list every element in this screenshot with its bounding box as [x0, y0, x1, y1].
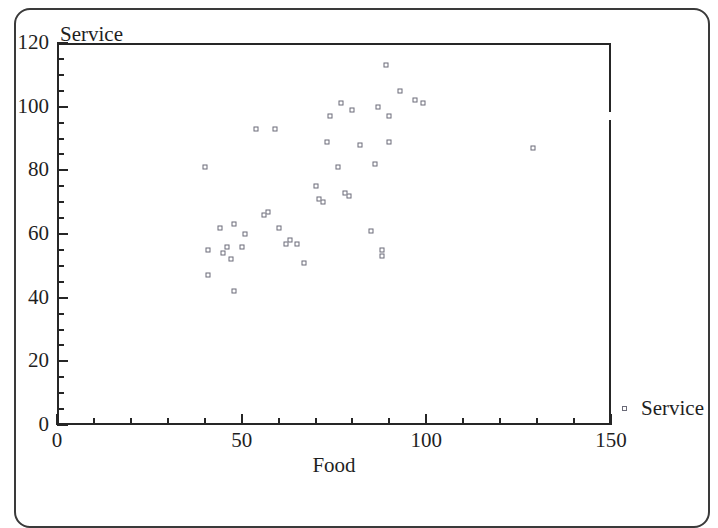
scatter-point	[335, 165, 340, 170]
scatter-point	[295, 241, 300, 246]
scatter-point	[272, 126, 277, 131]
scatter-point	[339, 101, 344, 106]
scatter-point	[357, 142, 362, 147]
scatter-point	[265, 209, 270, 214]
scatter-point	[398, 88, 403, 93]
x-axis-tick-label: 0	[27, 430, 87, 451]
y-axis-title: Service	[60, 24, 123, 45]
scatter-point	[254, 126, 259, 131]
scatter-point	[380, 247, 385, 252]
legend-entry-label: Service	[641, 398, 704, 419]
scatter-point	[313, 184, 318, 189]
scatter-point	[380, 254, 385, 259]
scatter-point	[531, 146, 536, 151]
scatter-point	[320, 200, 325, 205]
scatter-point	[224, 244, 229, 249]
x-axis-title: Food	[0, 455, 668, 476]
scatter-point	[217, 225, 222, 230]
open-square-marker-icon	[622, 406, 627, 411]
scatter-point	[232, 289, 237, 294]
y-axis-tick-label: 100	[1, 96, 49, 117]
y-axis-tick-label: 40	[1, 287, 49, 308]
scatter-point	[350, 107, 355, 112]
x-axis-tick-label: 150	[581, 430, 641, 451]
scatter-point	[324, 139, 329, 144]
scatter-point	[202, 165, 207, 170]
scatter-point	[346, 193, 351, 198]
scatter-point	[413, 98, 418, 103]
scatter-point	[287, 238, 292, 243]
scatter-point	[387, 114, 392, 119]
scatter-point	[420, 101, 425, 106]
scatter-point	[243, 232, 248, 237]
y-axis-tick-label: 60	[1, 223, 49, 244]
scatter-point	[206, 273, 211, 278]
y-axis-tick-label: 80	[1, 159, 49, 180]
x-axis-tick-label: 50	[212, 430, 272, 451]
scatter-point	[383, 63, 388, 68]
scatter-point	[239, 244, 244, 249]
scatter-point	[372, 161, 377, 166]
scatter-point	[228, 257, 233, 262]
y-axis-tick-label: 20	[1, 350, 49, 371]
scatter-point	[221, 251, 226, 256]
y-axis-tick-label: 120	[1, 32, 49, 53]
scatter-point	[302, 260, 307, 265]
scatter-point	[376, 104, 381, 109]
scatter-point	[232, 222, 237, 227]
plot-data-area	[57, 43, 611, 425]
scatter-point	[387, 139, 392, 144]
scatter-point	[328, 114, 333, 119]
legend: Service	[622, 398, 704, 419]
x-axis-tick-label: 100	[396, 430, 456, 451]
scatter-point	[276, 225, 281, 230]
scatter-point	[368, 228, 373, 233]
scatter-point	[206, 247, 211, 252]
